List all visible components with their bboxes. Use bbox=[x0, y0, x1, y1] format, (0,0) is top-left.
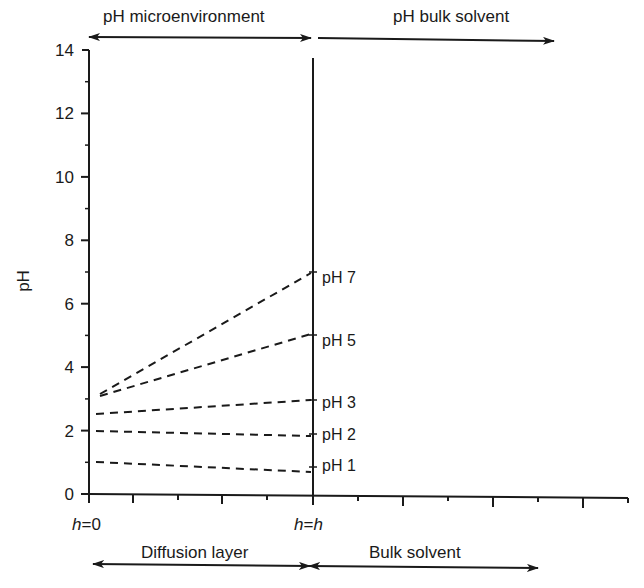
top-region-labels: pH microenvironment pH bulk solvent bbox=[89, 7, 554, 41]
label-ph-bulk-solvent: pH bulk solvent bbox=[393, 7, 510, 26]
label-diffusion-layer: Diffusion layer bbox=[141, 543, 249, 562]
y-tick-14: 14 bbox=[55, 41, 74, 60]
label-ph2: pH 2 bbox=[322, 426, 356, 443]
y-tick-4: 4 bbox=[65, 358, 74, 377]
label-ph-microenvironment: pH microenvironment bbox=[103, 7, 265, 26]
y-axis: 0 2 4 6 8 10 12 14 pH bbox=[14, 41, 89, 504]
ph-profiles bbox=[96, 273, 311, 472]
label-ph1: pH 1 bbox=[322, 457, 356, 474]
y-tick-2: 2 bbox=[65, 422, 74, 441]
arrow-diffusion-layer bbox=[93, 564, 310, 566]
series-ph7 bbox=[100, 273, 311, 394]
y-tick-6: 6 bbox=[65, 295, 74, 314]
x-axis: h=0 h=h bbox=[72, 494, 628, 534]
arrow-microenvironment bbox=[89, 37, 311, 38]
series-labels: pH 7 pH 5 pH 3 pH 2 pH 1 bbox=[322, 269, 356, 474]
label-ph7: pH 7 bbox=[322, 269, 356, 286]
label-ph3: pH 3 bbox=[322, 394, 356, 411]
series-ph5 bbox=[100, 334, 311, 396]
arrow-bulk-solvent-top bbox=[318, 38, 554, 41]
series-ph2 bbox=[96, 431, 311, 436]
series-ph1 bbox=[96, 462, 311, 472]
label-ph5: pH 5 bbox=[322, 332, 356, 349]
y-tick-8: 8 bbox=[65, 231, 74, 250]
y-tick-0: 0 bbox=[65, 485, 74, 504]
y-axis-title: pH bbox=[14, 270, 33, 292]
x-label-hh: h=h bbox=[294, 515, 323, 534]
series-ph3 bbox=[96, 400, 311, 414]
y-tick-10: 10 bbox=[55, 168, 74, 187]
arrow-bulk-solvent-bottom bbox=[309, 566, 538, 568]
label-bulk-solvent: Bulk solvent bbox=[369, 543, 461, 562]
x-label-h0: h=0 bbox=[72, 515, 101, 534]
diffusion-ph-diagram: pH microenvironment pH bulk solvent bbox=[0, 0, 644, 588]
y-tick-12: 12 bbox=[55, 104, 74, 123]
bottom-region-labels: Diffusion layer Bulk solvent bbox=[93, 543, 538, 568]
